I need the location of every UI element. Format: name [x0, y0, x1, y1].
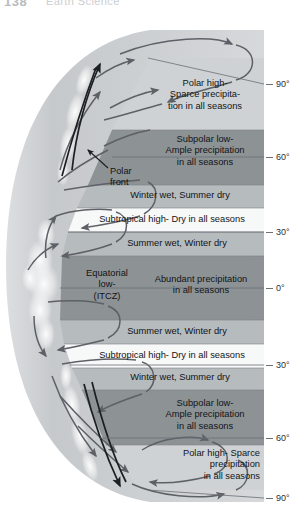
tick-dash — [266, 365, 273, 366]
tick-dash — [266, 438, 273, 439]
lat-tick-30n: 30° — [266, 227, 290, 237]
band-label-subtropical-high-north: Subtropical high- Dry in all seasons — [82, 214, 262, 225]
band-label-polar-high-north: Polar high- Sparce precipita- tion in al… — [150, 78, 260, 112]
band-label-summer-wet-south: Summer wet, Winter dry — [92, 326, 262, 337]
page-number: 138 — [4, 0, 27, 9]
tick-dash — [266, 84, 273, 85]
lat-tick-60n: 60° — [266, 152, 290, 162]
band-label-subtropical-high-south: Subtropical high- Dry in all seasons — [82, 350, 262, 361]
lat-tick-90s: 90° — [266, 493, 290, 503]
polar-front-label: Polar front — [110, 166, 154, 189]
lat-tick-0: 0° — [266, 283, 285, 293]
band-label-polar-high-south: Polar high- Sparce precipitation in all … — [148, 448, 260, 482]
page-header: 138 Earth Science — [0, 0, 300, 16]
band-label-winter-wet-south: Winter wet, Summer dry — [98, 372, 262, 383]
band-label-subpolar-low-south: Subpolar low- Ample precipitation in all… — [148, 398, 262, 432]
lat-tick-90n: 90° — [266, 79, 290, 89]
band-label-winter-wet-north: Winter wet, Summer dry — [98, 190, 262, 201]
band-label-equatorial-low-side: Equatorial low- (ITCZ) — [76, 268, 138, 302]
band-label-subpolar-low-north: Subpolar low- Ample precipitation in all… — [148, 134, 262, 168]
circulation-diagram: 90° 60° 30° 0° 30° 60° 90° Polar high- S… — [0, 20, 300, 512]
tick-dash — [266, 288, 273, 289]
tick-dash — [266, 157, 273, 158]
lat-tick-60s: 60° — [266, 433, 290, 443]
lat-tick-30s: 30° — [266, 360, 290, 370]
band-label-equatorial-low: Abundant precipitation in all seasons — [142, 274, 260, 297]
running-head: Earth Science — [46, 0, 120, 7]
tick-dash — [266, 498, 273, 499]
tick-dash — [266, 232, 273, 233]
band-label-summer-wet-north: Summer wet, Winter dry — [92, 238, 262, 249]
